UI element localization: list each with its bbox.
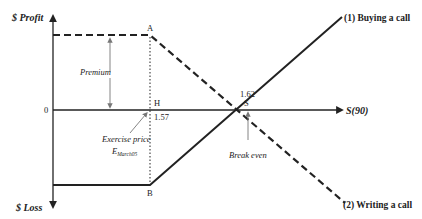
exercise-price-pointer [130,114,146,133]
breakeven-value: 1.62 [240,89,255,99]
call-option-payoff-diagram: $ Profit $ Loss 0 S(90) A H B S 1.57 1.6… [0,0,422,219]
point-b-label: B [147,188,153,198]
exercise-symbol: EMarch05 [111,146,137,157]
exercise-value: 1.57 [154,112,169,122]
point-a-label: A [147,23,154,33]
writing-call-line [53,35,345,203]
point-h-label: H [154,98,160,108]
writing-call-label: (2) Writing a call [343,200,412,211]
y-axis-profit-label: $ Profit [11,12,45,23]
buying-call-line [53,17,342,185]
exercise-price-label: Exercise price [101,134,151,144]
premium-label: Premium [79,67,111,77]
buying-call-label: (1) Buying a call [344,13,411,24]
break-even-label: Break even [229,150,267,160]
x-axis-label: S(90) [346,105,368,117]
point-s-label: S [244,98,249,108]
exercise-subscript: March05 [116,151,137,157]
y-axis-loss-label: $ Loss [15,202,43,213]
origin-label: 0 [44,105,48,115]
